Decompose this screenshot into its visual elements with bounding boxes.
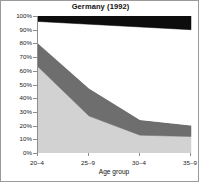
x-axis-tick-label: 35–9 bbox=[183, 159, 197, 166]
y-axis-tick-label: 100% bbox=[16, 13, 32, 19]
x-axis-tick-mark bbox=[37, 153, 38, 156]
y-axis: 0%10%20%30%40%50%60%70%80%90%100% bbox=[1, 16, 37, 153]
x-axis-title: Age group bbox=[37, 168, 191, 176]
y-axis-tick-label: 40% bbox=[20, 95, 32, 101]
chart-figure: Germany (1992) 0%10%20%30%40%50%60%70%80… bbox=[0, 0, 199, 182]
stacked-area-plot bbox=[38, 16, 192, 153]
x-axis-tick-label: 20–4 bbox=[30, 159, 44, 166]
y-axis-tick-label: 60% bbox=[20, 68, 32, 74]
x-axis-tick-mark bbox=[88, 153, 89, 156]
y-axis-tick-label: 80% bbox=[20, 40, 32, 46]
plot-area bbox=[37, 16, 191, 153]
y-axis-tick-label: 0% bbox=[23, 150, 32, 156]
x-axis-tick-label: 25–9 bbox=[81, 159, 95, 166]
y-axis-tick-label: 50% bbox=[20, 82, 32, 88]
y-axis-tick-label: 90% bbox=[20, 27, 32, 33]
y-axis-tick-label: 10% bbox=[20, 136, 32, 142]
x-axis-tick-mark bbox=[139, 153, 140, 156]
x-axis-tick-label: 30–4 bbox=[132, 159, 146, 166]
chart-title: Germany (1992) bbox=[1, 2, 200, 12]
x-axis-tick-mark bbox=[190, 153, 191, 156]
y-axis-tick-label: 30% bbox=[20, 109, 32, 115]
x-axis: 20–425–930–435–9 bbox=[37, 156, 191, 168]
y-axis-tick-label: 70% bbox=[20, 54, 32, 60]
y-axis-tick-label: 20% bbox=[20, 123, 32, 129]
